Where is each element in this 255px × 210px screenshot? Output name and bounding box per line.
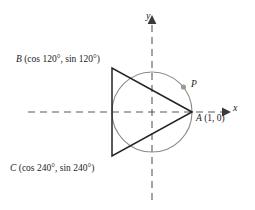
vertex-a-label: A (1, 0): [196, 114, 225, 124]
y-axis-label: y: [146, 11, 150, 21]
vertex-b-coords: (cos 120°, sin 120°): [22, 54, 100, 64]
vertex-c-coords: (cos 240°, sin 240°): [16, 163, 94, 173]
point-p-marker: [181, 84, 186, 89]
point-p-name: P: [191, 79, 197, 89]
figure-canvas: [0, 0, 255, 210]
vertex-b-label: B (cos 120°, sin 120°): [16, 55, 100, 65]
vertex-a-coords: (1, 0): [202, 113, 225, 123]
unit-circle-figure: B (cos 120°, sin 120°) C (cos 240°, sin …: [0, 0, 255, 210]
vertex-c-label: C (cos 240°, sin 240°): [10, 164, 94, 174]
point-p-label: P: [191, 80, 197, 90]
x-axis-label: x: [233, 103, 237, 113]
y-axis: [148, 15, 157, 200]
